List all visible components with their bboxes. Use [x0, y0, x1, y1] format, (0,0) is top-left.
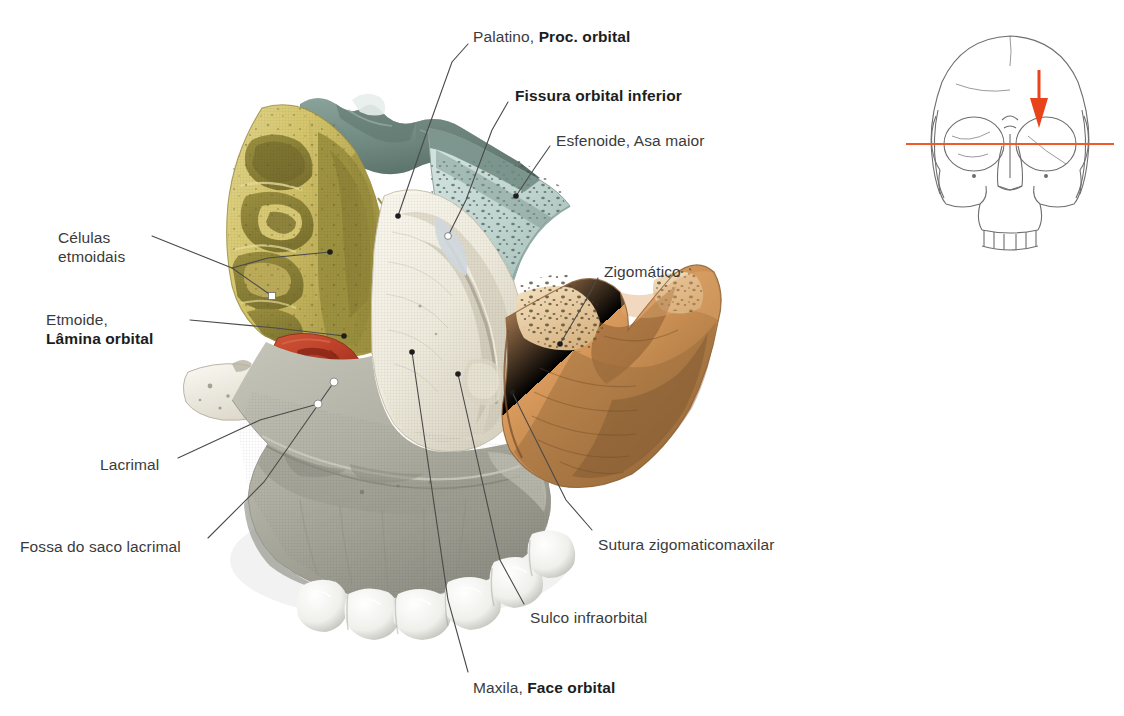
label-palatino: Palatino, Proc. orbital: [473, 27, 630, 46]
marker-esfenoide: [513, 193, 519, 199]
marker-fossa: [330, 378, 338, 386]
label-celulas-etmoidais: Células etmoidais: [58, 228, 125, 267]
marker-palatino: [395, 213, 401, 219]
label-fissura-orbital-inferior: Fissura orbital inferior: [515, 86, 682, 105]
label-zigomatico: Zigomático: [604, 262, 681, 281]
label-maxila-plain: Maxila,: [473, 679, 523, 696]
marker-celulas-2: [327, 249, 333, 255]
label-maxila-bold: Face orbital: [527, 679, 615, 696]
label-sutura-zigomaticomaxilar: Sutura zigomaticomaxilar: [598, 535, 774, 554]
marker-celulas: [269, 293, 276, 300]
marker-zigomatico: [557, 341, 563, 347]
label-etmoide-bold: Lâmina orbital: [46, 329, 153, 348]
label-etmoide-lamina-orbital: Etmoide, Lâmina orbital: [46, 310, 153, 349]
label-etmoide-plain: Etmoide,: [46, 310, 153, 329]
label-fossa-do-saco-lacrimal: Fossa do saco lacrimal: [20, 537, 181, 556]
label-maxila-face-orbital: Maxila, Face orbital: [473, 678, 615, 697]
marker-maxila: [409, 349, 415, 355]
marker-sutura: [509, 389, 515, 395]
marker-lacrimal: [314, 400, 322, 408]
marker-sulco: [455, 371, 461, 377]
label-palatino-bold: Proc. orbital: [539, 28, 631, 45]
label-lacrimal: Lacrimal: [100, 455, 159, 474]
marker-fissura: [445, 233, 452, 240]
label-celulas-line2: etmoidais: [58, 247, 125, 266]
label-sulco-infraorbital: Sulco infraorbital: [530, 608, 647, 627]
label-celulas-line1: Células: [58, 228, 125, 247]
label-esfenoide-asa-maior: Esfenoide, Asa maior: [556, 131, 704, 150]
label-palatino-plain: Palatino,: [473, 28, 534, 45]
marker-etmoide: [341, 333, 347, 339]
